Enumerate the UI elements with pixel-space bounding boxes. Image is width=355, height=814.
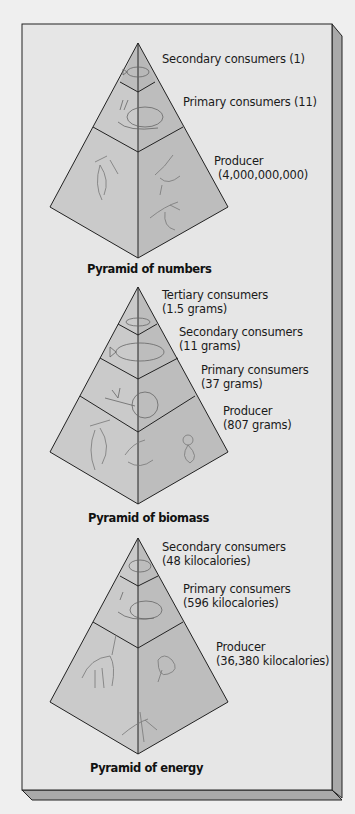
pyramid-title: Pyramid of biomass — [88, 511, 209, 525]
label-secondary-consumers-value: (11 grams) — [179, 340, 241, 353]
label-producer-value: (807 grams) — [223, 419, 292, 432]
label-primary-consumers: Primary consumers — [183, 583, 291, 596]
diagram-canvas — [0, 0, 355, 814]
label-secondary-consumers: Secondary consumers — [162, 541, 286, 554]
label-secondary-consumers-value: (48 kilocalories) — [162, 555, 251, 568]
label-tertiary-consumers: Tertiary consumers — [162, 289, 268, 302]
pyramid-title: Pyramid of numbers — [87, 262, 211, 276]
label-primary-consumers: Primary consumers (11) — [183, 96, 317, 109]
label-primary-consumers: Primary consumers — [201, 364, 309, 377]
label-primary-consumers-value: (37 grams) — [201, 378, 263, 391]
label-producer: Producer — [223, 405, 272, 418]
label-producer: Producer — [214, 155, 263, 168]
label-secondary-consumers: Secondary consumers — [179, 326, 303, 339]
label-tertiary-consumers-value: (1.5 grams) — [162, 303, 227, 316]
label-secondary-consumers: Secondary consumers (1) — [162, 53, 305, 66]
label-primary-consumers-value: (596 kilocalories) — [183, 597, 279, 610]
label-producer-value: (4,000,000,000) — [218, 169, 308, 182]
label-producer-value: (36,380 kilocalories) — [216, 655, 329, 668]
label-producer: Producer — [216, 641, 265, 654]
pyramid-title: Pyramid of energy — [90, 761, 203, 775]
